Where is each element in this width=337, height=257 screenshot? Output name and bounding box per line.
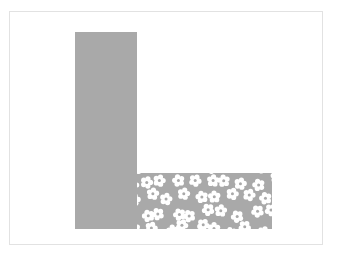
l-shape xyxy=(10,12,324,246)
horizontal-bar xyxy=(137,173,272,229)
flower-pattern xyxy=(137,173,272,229)
image-border xyxy=(9,11,323,245)
vertical-bar xyxy=(75,32,137,229)
image-canvas xyxy=(0,0,337,257)
